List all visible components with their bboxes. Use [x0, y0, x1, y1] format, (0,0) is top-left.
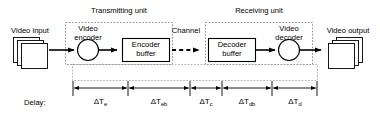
video-encoder-node — [78, 40, 99, 61]
delay-subscript-tdb: db — [249, 101, 255, 107]
delay-symbol-td: ΔT — [288, 97, 298, 106]
video-output-frame-stack — [329, 38, 363, 69]
channel-label: Channel — [164, 26, 208, 35]
video-encoder-label-line2: encoder — [66, 34, 110, 43]
receiving-unit-title: Receiving unit — [209, 6, 309, 15]
delay-symbol-tc: ΔT — [199, 97, 209, 106]
transmitting-unit-title: Transmitting unit — [69, 6, 169, 15]
video-input-label: Video input — [0, 26, 60, 35]
delay-label-td: ΔTd — [273, 97, 317, 106]
delay-subscript-te: e — [104, 101, 107, 107]
delay-subscript-teb: eb — [161, 101, 167, 107]
video-delay-block-diagram: Transmitting unit Receiving unit Channel… — [0, 0, 380, 118]
video-decoder-node — [279, 40, 300, 61]
delay-subscript-td: d — [299, 101, 302, 107]
video-input-frame-stack — [14, 38, 48, 69]
delay-symbol-teb: ΔT — [151, 97, 161, 106]
delay-symbol-tdb: ΔT — [239, 97, 249, 106]
delay-label-teb: ΔTeb — [129, 97, 189, 106]
delay-subscript-tc: c — [210, 101, 213, 107]
delay-label-tc: ΔTc — [190, 97, 222, 106]
encoder-buffer-label-line2: buffer — [123, 50, 169, 59]
delay-row-label: Delay: — [24, 98, 70, 107]
delay-span-dashed-box — [73, 65, 318, 81]
decoder-buffer-label-line2: buffer — [209, 50, 255, 59]
delay-symbol-te: ΔT — [94, 97, 104, 106]
delay-label-te: ΔTe — [73, 97, 128, 106]
video-decoder-label-line2: decoder — [267, 34, 311, 43]
video-output-label: Video output — [316, 26, 380, 35]
delay-measurement-ruler — [73, 81, 317, 96]
delay-label-tdb: ΔTdb — [223, 97, 271, 106]
